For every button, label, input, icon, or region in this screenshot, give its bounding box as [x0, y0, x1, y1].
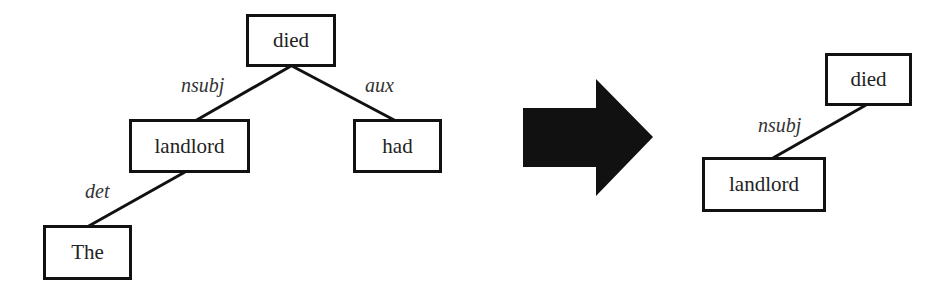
node-label: had [382, 134, 412, 159]
node-label: landlord [729, 172, 799, 197]
node-label: died [850, 67, 886, 92]
node-after-landlord: landlord [702, 157, 826, 212]
node-had: had [353, 119, 442, 173]
node-the: The [43, 225, 132, 280]
node-after-died: died [825, 53, 912, 106]
node-label: The [71, 240, 104, 265]
edge-label-aux: aux [365, 74, 394, 97]
node-landlord: landlord [129, 119, 250, 173]
node-label: landlord [155, 134, 225, 159]
node-label: died [273, 28, 309, 53]
node-died: died [246, 14, 336, 67]
edge-label-after-nsubj: nsubj [758, 114, 801, 137]
dependency-pruning-diagram: died landlord had The nsubj aux det died… [0, 0, 951, 295]
edge-label-det: det [85, 180, 109, 203]
transform-arrow-icon [523, 79, 653, 196]
edge-label-nsubj: nsubj [181, 74, 224, 97]
